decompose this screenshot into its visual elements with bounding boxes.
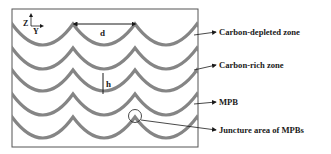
z-axis-label: Z — [23, 19, 28, 28]
y-axis-label: Y — [33, 27, 39, 36]
molten-pool-boundary-diagram: Z Y d h Carbon-depleted zone Carbon-rich… — [0, 0, 331, 154]
label-carbon-depleted-zone: Carbon-depleted zone — [219, 27, 300, 37]
label-juncture-area: Juncture area of MPBs — [219, 125, 305, 135]
label-mpb: MPB — [219, 97, 238, 107]
d-label: d — [100, 28, 105, 38]
label-carbon-rich-zone: Carbon-rich zone — [219, 60, 284, 70]
h-label: h — [106, 79, 111, 89]
